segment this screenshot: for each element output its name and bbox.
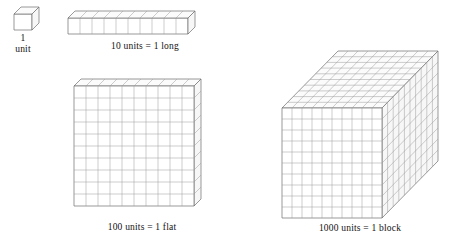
hundred-flat-figure [72,74,212,214]
unit-cube-drawing [12,5,46,33]
hundred-flat-drawing [72,74,212,214]
ten-long-caption: 10 units = 1 long [80,41,210,52]
unit-cube-caption-line2: unit [0,44,46,55]
ten-long-drawing [66,8,206,38]
thousand-block-figure [280,48,440,223]
thousand-block-drawing [280,48,440,223]
unit-cube-caption-line1: 1 [0,33,46,44]
base-ten-blocks-diagram: 1 unit [0,0,455,244]
hundred-flat-caption: 100 units = 1 flat [77,222,207,233]
unit-cube-front-face [14,14,32,30]
unit-cube-figure [12,5,46,33]
thousand-block-caption: 1000 units = 1 block [285,223,435,234]
ten-long-figure [66,8,206,38]
